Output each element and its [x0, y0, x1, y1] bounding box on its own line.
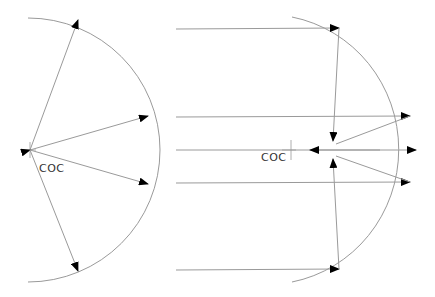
right-reflected-ray-lower: [336, 156, 410, 182]
right-coc-label: COC: [261, 151, 287, 164]
right-incoming-ray-2: [176, 116, 410, 117]
right-incoming-ray-1: [176, 28, 339, 29]
left-mirror-diagram: [20, 18, 160, 282]
right-reflected-ray-bottom: [333, 159, 339, 269]
optics-diagram: [0, 0, 435, 297]
left-ray-2: [30, 116, 148, 150]
left-coc-label: COC: [39, 162, 65, 175]
right-reflected-ray-top: [333, 28, 339, 141]
left-ray-1: [30, 20, 78, 150]
right-incoming-ray-4: [176, 182, 410, 183]
right-mirror-diagram: [176, 17, 416, 282]
right-reflected-ray-upper: [336, 116, 410, 144]
left-mirror-arc: [28, 18, 160, 282]
right-incoming-ray-5: [176, 269, 339, 270]
